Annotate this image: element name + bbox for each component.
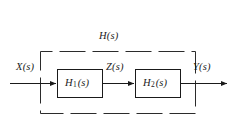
- signal-input-arg: (s): [23, 61, 35, 72]
- signal-intermediate-arg: (s): [112, 61, 124, 72]
- system-label-base: H: [99, 30, 107, 41]
- system-label-arg: (s): [107, 30, 119, 41]
- block-diagram: H(s) X(s) Z(s) Y(s) H1(s) H2(s): [0, 0, 233, 127]
- system-label-h: H(s): [99, 31, 118, 42]
- block-label-h1: H1(s): [65, 78, 89, 89]
- block-h1-base: H: [65, 77, 73, 88]
- signal-label-output: Y(s): [193, 62, 211, 73]
- signal-output-arg: (s): [199, 61, 211, 72]
- block-h2-arg: (s): [156, 77, 168, 88]
- block-label-h2: H2(s): [143, 78, 167, 89]
- block-h1-arg: (s): [78, 77, 90, 88]
- signal-input-base: X: [16, 61, 23, 72]
- signal-label-intermediate: Z(s): [106, 62, 124, 73]
- signal-label-input: X(s): [16, 62, 34, 73]
- block-h2-base: H: [143, 77, 151, 88]
